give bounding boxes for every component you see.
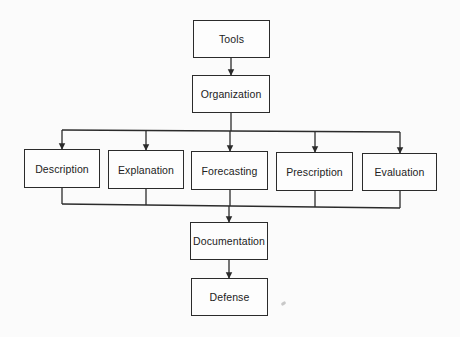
node-evaluation: Evaluation (362, 153, 437, 191)
node-defense: Defense (191, 278, 268, 316)
node-evaluation-label: Evaluation (374, 166, 424, 178)
node-description: Description (24, 149, 100, 188)
bottom-collection-bar (62, 204, 400, 208)
node-forecasting: Forecasting (191, 151, 268, 190)
node-explanation: Explanation (108, 150, 184, 189)
node-organization-label: Organization (201, 88, 262, 100)
node-explanation-label: Explanation (118, 164, 174, 176)
node-documentation-label: Documentation (193, 235, 265, 247)
node-documentation: Documentation (190, 222, 268, 260)
node-organization: Organization (192, 75, 270, 113)
node-defense-label: Defense (210, 291, 250, 303)
node-prescription: Prescription (276, 152, 353, 191)
node-prescription-label: Prescription (286, 166, 343, 178)
node-description-label: Description (35, 163, 89, 175)
node-tools: Tools (193, 20, 270, 58)
node-tools-label: Tools (219, 33, 244, 45)
node-forecasting-label: Forecasting (202, 165, 258, 177)
